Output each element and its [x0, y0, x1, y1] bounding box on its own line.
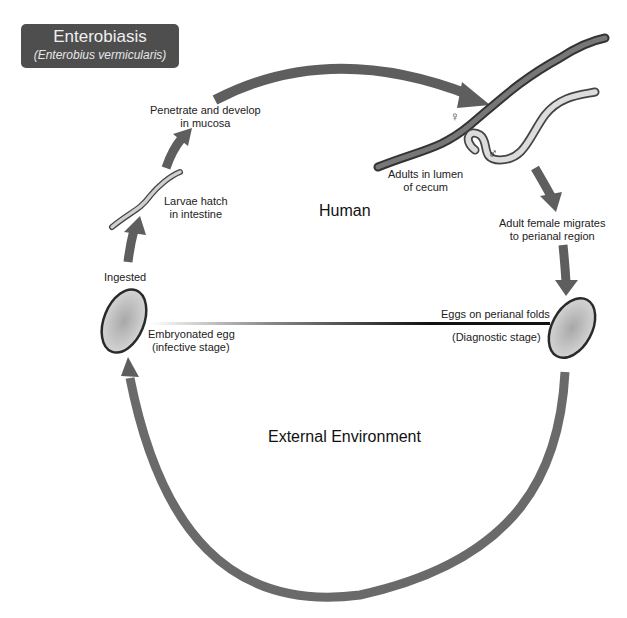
- title-subtitle: (Enterobius vermicularis): [21, 47, 179, 63]
- label-migrate: Adult female migrates to perianal region: [499, 217, 605, 243]
- arrow-to-perianal: [555, 245, 578, 296]
- label-embryonated-line2: (infective stage): [148, 341, 235, 354]
- label-larvae-line1: Larvae hatch: [164, 195, 228, 208]
- label-ingested: Ingested: [104, 271, 146, 284]
- label-embryonated-line1: Embryonated egg: [148, 328, 235, 341]
- label-embryonated: Embryonated egg (infective stage): [148, 328, 235, 354]
- arrow-to-mucosa: [166, 128, 192, 168]
- perianal-egg-icon: [539, 290, 604, 365]
- label-larvae-line2: in intestine: [164, 208, 228, 221]
- female-symbol-icon: ♀: [450, 109, 460, 124]
- label-eggs-perianal: Eggs on perianal folds: [441, 308, 550, 321]
- arrow-to-adults: [215, 69, 490, 108]
- region-external: External Environment: [268, 428, 421, 446]
- label-migrate-line1: Adult female migrates: [499, 217, 605, 230]
- label-penetrate-line2: in mucosa: [150, 117, 261, 130]
- region-human: Human: [319, 202, 371, 220]
- arrow-external-loop: [121, 357, 565, 597]
- label-penetrate: Penetrate and develop in mucosa: [150, 104, 261, 130]
- label-adults: Adults in lumen of cecum: [388, 168, 463, 194]
- title-main: Enterobiasis: [21, 27, 179, 47]
- arrow-adult-migrates: [535, 168, 562, 212]
- embryonated-egg-icon: [93, 283, 155, 359]
- label-adults-line2: of cecum: [388, 181, 463, 194]
- label-diagnostic: (Diagnostic stage): [452, 331, 541, 344]
- male-symbol-icon: ♂: [488, 146, 498, 161]
- title-box: Enterobiasis (Enterobius vermicularis): [21, 24, 179, 68]
- label-penetrate-line1: Penetrate and develop: [150, 104, 261, 117]
- label-larvae: Larvae hatch in intestine: [164, 195, 228, 221]
- label-adults-line1: Adults in lumen: [388, 168, 463, 181]
- human-environment-divider: [150, 322, 550, 325]
- arrow-to-larvae: [124, 216, 146, 262]
- label-migrate-line2: to perianal region: [499, 230, 605, 243]
